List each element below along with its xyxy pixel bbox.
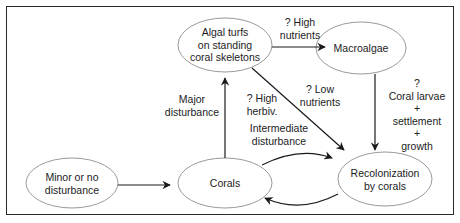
label-recolonization: Recolonization by corals bbox=[338, 167, 432, 192]
label-high-nutrients: ? High nutrients bbox=[272, 16, 328, 41]
edge-recolonization-to-corals bbox=[265, 194, 338, 205]
edge-intermediate-disturbance bbox=[262, 153, 332, 165]
label-high-herbiv: ? High herbiv. bbox=[244, 92, 280, 117]
label-macroalgae: Macroalgae bbox=[316, 42, 406, 55]
label-algal-turfs: Algal turfs on standing coral skeletons bbox=[178, 26, 272, 64]
label-minor-disturbance: Minor or no disturbance bbox=[26, 171, 118, 196]
label-low-nutrients: ? Low nutrients bbox=[295, 83, 345, 108]
label-major-disturbance: Major disturbance bbox=[162, 93, 222, 118]
label-coral-larvae: ? Coral larvae + settlement + growth bbox=[383, 77, 451, 152]
label-corals: Corals bbox=[178, 177, 272, 190]
label-intermediate-disturbance: Intermediate disturbance bbox=[245, 122, 313, 147]
